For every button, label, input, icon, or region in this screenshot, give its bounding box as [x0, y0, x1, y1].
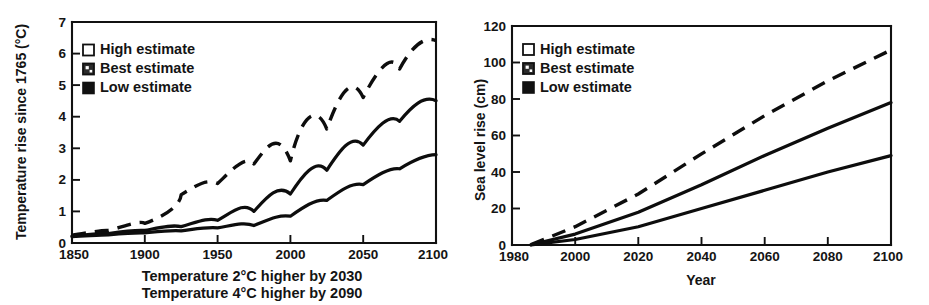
legend-label-low-estimate: Low estimate [540, 79, 632, 95]
x-axis-ticks [72, 235, 436, 243]
series-best-estimate [72, 99, 436, 236]
y-tick-label: 7 [58, 15, 66, 30]
x-axis-title: Year [686, 272, 716, 288]
legend-label-high-estimate: High estimate [540, 41, 635, 57]
climate-projection-figure: 0 1 2 3 4 5 6 7 1850 1900 1950 [0, 0, 929, 305]
filled-square-icon [83, 83, 94, 94]
y-tick-label: 20 [491, 201, 506, 216]
x-tick-label: 2080 [813, 249, 843, 264]
half-filled-square-icon-detail [86, 66, 89, 69]
open-square-icon [83, 45, 94, 56]
x-axis-tick-labels: 1980 2000 2020 2040 2060 2080 2100 [499, 249, 903, 264]
x-tick-label: 1980 [499, 249, 529, 264]
y-tick-label: 40 [491, 165, 506, 180]
legend-label-high-estimate: High estimate [100, 41, 195, 57]
x-axis-tick-labels: 1850 1900 1950 2000 2050 2100 [59, 247, 448, 262]
caption-line-2: Temperature 4°C higher by 2090 [142, 285, 363, 301]
x-tick-label: 2000 [275, 247, 305, 262]
panel-temperature-rise: 0 1 2 3 4 5 6 7 1850 1900 1950 [0, 0, 465, 305]
caption-line-1: Temperature 2°C higher by 2030 [142, 268, 363, 284]
legend-label-best-estimate: Best estimate [100, 60, 194, 76]
x-tick-label: 1950 [203, 247, 233, 262]
x-tick-label: 2100 [873, 249, 903, 264]
x-tick-label: 2100 [418, 247, 448, 262]
legend-label-low-estimate: Low estimate [100, 79, 192, 95]
half-filled-square-icon-detail [530, 69, 533, 72]
temperature-chart-svg: 0 1 2 3 4 5 6 7 1850 1900 1950 [0, 0, 465, 305]
open-square-icon [523, 44, 534, 55]
y-tick-label: 80 [491, 92, 506, 107]
y-tick-label: 60 [491, 128, 506, 143]
y-tick-label: 100 [483, 55, 506, 70]
x-tick-label: 2000 [560, 249, 590, 264]
x-tick-label: 2060 [750, 249, 780, 264]
y-tick-label: 1 [58, 204, 66, 219]
y-tick-label: 5 [58, 78, 66, 93]
y-axis-ticks [512, 26, 520, 245]
x-tick-label: 1900 [130, 247, 160, 262]
y-tick-label: 120 [483, 19, 506, 34]
x-tick-label: 1850 [59, 247, 89, 262]
x-tick-label: 2020 [623, 249, 653, 264]
y-axis-tick-labels: 0 1 2 3 4 5 6 7 [58, 15, 66, 251]
half-filled-square-icon-detail [90, 70, 93, 73]
filled-square-icon [523, 82, 534, 93]
y-axis-ticks [72, 22, 80, 243]
y-tick-label: 4 [58, 109, 66, 124]
half-filled-square-icon-detail [526, 66, 529, 69]
legend-label-best-estimate: Best estimate [540, 60, 634, 76]
x-tick-label: 2040 [686, 249, 716, 264]
y-tick-label: 3 [58, 141, 66, 156]
legend: High estimate Best estimate Low estimate [523, 41, 635, 95]
y-tick-label: 6 [58, 46, 66, 61]
sea-level-chart-svg: 0 20 40 60 80 100 120 1980 2000 [465, 0, 929, 305]
y-axis-title: Sea level rise (cm) [472, 79, 488, 201]
panel-sea-level-rise: 0 20 40 60 80 100 120 1980 2000 [465, 0, 929, 305]
y-axis-title: Temperature rise since 1765 (°C) [13, 24, 29, 240]
x-tick-label: 2050 [348, 247, 378, 262]
legend: High estimate Best estimate Low estimate [83, 41, 195, 95]
y-tick-label: 2 [58, 172, 66, 187]
